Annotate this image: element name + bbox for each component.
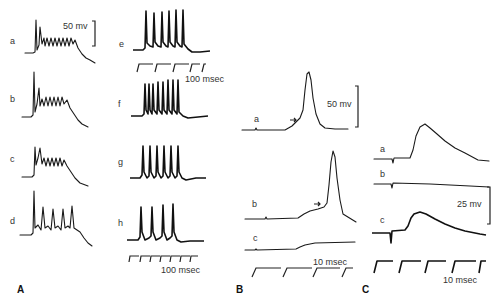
trace-B-c: [245, 242, 355, 250]
trace-label-A-h: h: [118, 219, 123, 228]
trace-A-h: [127, 204, 204, 242]
scale-bar-B-mv: [355, 86, 358, 127]
trace-A-d: [20, 191, 92, 246]
trace-label-A-c: c: [10, 155, 15, 164]
trace-A-c: [22, 147, 88, 186]
figure-traces: [0, 0, 498, 303]
trace-label-C-c: c: [380, 216, 385, 225]
trace-label-B-a: a: [254, 115, 259, 124]
trace-label-A-a: a: [10, 37, 15, 46]
trace-C-a: [374, 124, 489, 163]
trace-B-b: [245, 151, 356, 222]
trace-label-A-g: g: [118, 158, 123, 167]
panel-label-C: C: [362, 285, 369, 295]
trace-A-f: [131, 80, 208, 118]
trace-A-e: [133, 10, 210, 52]
trace-label-B-b: b: [252, 200, 257, 209]
arrow-B-b: [314, 202, 320, 206]
trace-label-C-a: a: [380, 145, 385, 154]
scale-label-C-msec: 10 msec: [443, 276, 477, 285]
trace-C-c: [372, 212, 486, 243]
trace-label-C-b: b: [380, 170, 385, 179]
panel-label-B: B: [236, 285, 243, 295]
trace-label-A-d: d: [10, 217, 15, 226]
scale-label-A-msec-bottom: 100 msec: [161, 266, 200, 275]
arrow-B-a: [290, 118, 296, 122]
trace-label-B-c: c: [253, 234, 258, 243]
panel-label-A: A: [17, 285, 24, 295]
time-marker-A-bottom: [129, 256, 198, 262]
scale-bar-A-mv: [92, 21, 95, 46]
trace-label-A-b: b: [10, 95, 15, 104]
scale-label-A-mv: 50 mv: [63, 22, 88, 31]
time-marker-A-top: [137, 64, 206, 72]
scale-bar-C-mv: [487, 187, 490, 224]
scale-label-A-msec-top: 100 msec: [185, 75, 224, 84]
scale-label-C-mv: 25 mv: [457, 200, 482, 209]
trace-label-A-f: f: [118, 100, 121, 109]
time-marker-B: [252, 268, 353, 277]
scale-label-B-msec: 10 msec: [313, 258, 347, 267]
trace-A-b: [22, 72, 88, 127]
trace-C-b: [374, 183, 489, 188]
time-marker-C: [374, 261, 486, 273]
trace-label-A-e: e: [119, 40, 124, 49]
scale-label-B-mv: 50 mv: [327, 100, 352, 109]
trace-A-g: [130, 146, 206, 180]
